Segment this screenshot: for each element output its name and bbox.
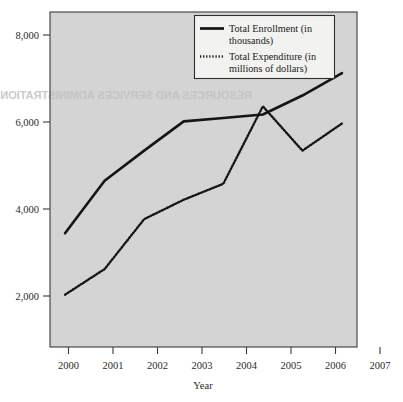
legend-label-expenditure-line1: Total Expenditure (in	[229, 51, 316, 63]
legend-label-enrollment-line1: Total Enrollment (in	[229, 23, 312, 35]
x-tick-label-2002: 2002	[147, 360, 168, 371]
x-axis-title: Year	[193, 380, 213, 391]
legend-label-expenditure-line2: millions of dollars)	[229, 63, 307, 75]
x-tick-label-2004: 2004	[236, 360, 258, 371]
chart-figure: RESOURCES AND SERVICES ADMINISTRATION 8,…	[0, 0, 403, 402]
x-axis-tick-labels: 2000 2001 2002 2003 2004 2005 2006 2007	[58, 360, 391, 371]
x-tick-label-2000: 2000	[58, 360, 79, 371]
x-tick-label-2001: 2001	[103, 360, 124, 371]
x-tick-label-2005: 2005	[281, 360, 302, 371]
line-chart: RESOURCES AND SERVICES ADMINISTRATION 8,…	[0, 0, 403, 402]
y-tick-label-8000: 8,000	[15, 30, 39, 41]
x-tick-label-2007: 2007	[370, 360, 391, 371]
chart-legend: Total Enrollment (in thousands) Total Ex…	[195, 16, 335, 79]
y-axis-ticks	[43, 35, 50, 296]
x-tick-label-2006: 2006	[325, 360, 346, 371]
x-axis-ticks	[69, 347, 381, 354]
x-tick-label-2003: 2003	[192, 360, 213, 371]
y-tick-label-2000: 2,000	[15, 291, 39, 302]
bleed-through-text: RESOURCES AND SERVICES ADMINISTRATION	[0, 89, 252, 101]
legend-label-enrollment-line2: thousands)	[229, 35, 273, 47]
y-axis-tick-labels: 8,000 6,000 4,000 2,000	[15, 30, 39, 302]
bleed-through-artifact: RESOURCES AND SERVICES ADMINISTRATION	[0, 89, 252, 101]
y-tick-label-6000: 6,000	[15, 117, 39, 128]
y-tick-label-4000: 4,000	[15, 204, 39, 215]
